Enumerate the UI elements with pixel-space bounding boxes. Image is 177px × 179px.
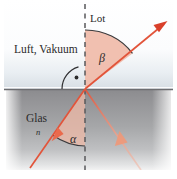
label-normal-lot: Lot <box>90 13 105 24</box>
label-upper-medium: Luft, Vakuum <box>14 44 78 56</box>
label-lower-medium: Glas <box>26 113 47 125</box>
optics-refraction-figure: Luft, Vakuum Lot Glas n β α <box>0 0 177 179</box>
label-refractive-index: n <box>36 128 40 137</box>
glass-region <box>6 89 171 173</box>
label-angle-beta: β <box>99 52 105 64</box>
label-angle-alpha: α <box>70 133 76 145</box>
figure-canvas <box>0 0 177 179</box>
glass-bottom-fade <box>0 170 177 179</box>
